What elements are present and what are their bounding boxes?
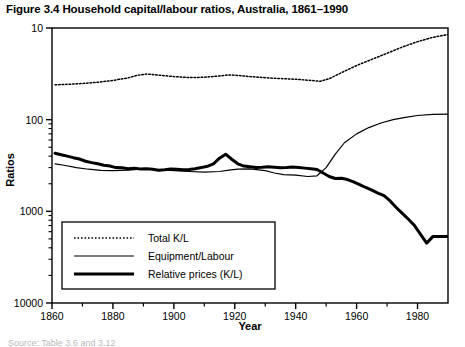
y-tick-label: 1000 (20, 205, 44, 217)
x-tick-label: 1940 (284, 310, 308, 322)
y-axis-tick-labels: 10000100010010 (14, 22, 43, 309)
legend-item-label: Total K/L (148, 232, 189, 244)
data-series-layer (55, 34, 448, 243)
series-line (55, 34, 448, 84)
x-tick-label: 1960 (345, 310, 369, 322)
source-caption: Source: Table 3.6 and 3.12 (8, 338, 115, 347)
legend-item-label: Relative prices (K/L) (148, 268, 243, 280)
x-tick-label: 1880 (101, 310, 125, 322)
x-tick-label: 1980 (406, 310, 430, 322)
x-axis-tick-labels: 1860188019001920194019601980 (40, 310, 429, 322)
y-tick-label: 100 (25, 114, 43, 126)
y-axis-label: Ratios (4, 153, 16, 187)
y-tick-label: 10 (31, 22, 43, 34)
y-tick-label: 10000 (14, 297, 43, 309)
x-tick-label: 1860 (40, 310, 64, 322)
legend-item-label: Equipment/Labour (148, 250, 234, 262)
x-axis-label: Year (238, 320, 262, 332)
chart-legend: Total K/LEquipment/LabourRelative prices… (62, 222, 275, 289)
x-axis-ticks (52, 303, 418, 309)
y-axis-ticks (46, 28, 52, 303)
chart-svg: 10000100010010 1860188019001920194019601… (0, 0, 465, 347)
chart-plot: 10000100010010 1860188019001920194019601… (0, 0, 465, 347)
x-tick-label: 1900 (162, 310, 186, 322)
